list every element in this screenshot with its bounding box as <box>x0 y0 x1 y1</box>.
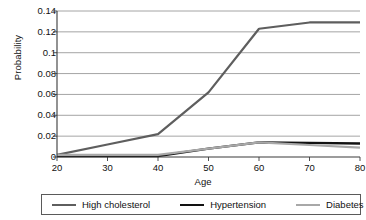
x-tick-label: 80 <box>340 162 366 173</box>
x-tick-label: 50 <box>189 162 229 173</box>
legend-label: High cholesterol <box>82 199 150 210</box>
legend-label: Diabetes <box>326 199 364 210</box>
legend-line-icon <box>52 204 76 206</box>
x-axis-title: Age <box>42 176 364 187</box>
x-tick-label: 60 <box>239 162 279 173</box>
series-line <box>57 22 360 154</box>
line-chart: Probability 0.140.120.10.080.060.040.020… <box>0 0 366 220</box>
legend-item: Diabetes <box>296 199 364 210</box>
axis-frame <box>57 11 360 157</box>
x-tick-label: 20 <box>37 162 77 173</box>
axis-ticks <box>53 11 360 161</box>
gridlines <box>57 11 360 157</box>
chart-legend: High cholesterolHypertensionDiabetes <box>41 194 361 215</box>
legend-line-icon <box>180 204 204 206</box>
x-tick-label: 70 <box>290 162 330 173</box>
x-tick-label: 30 <box>88 162 128 173</box>
series-line <box>57 142 360 155</box>
plot-area <box>0 0 366 220</box>
legend-item: High cholesterol <box>52 199 150 210</box>
x-tick-label: 40 <box>138 162 178 173</box>
legend-label: Hypertension <box>210 199 266 210</box>
legend-item: Hypertension <box>180 199 266 210</box>
legend-line-icon <box>296 204 320 206</box>
